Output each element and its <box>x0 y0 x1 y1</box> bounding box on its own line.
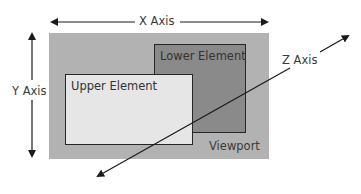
y-axis-label: Y Axis <box>12 86 47 98</box>
x-axis-label: X Axis <box>139 16 174 28</box>
z-axis-label: Z Axis <box>282 55 317 67</box>
stacking-diagram: Lower Element Upper Element Viewport X A… <box>0 0 361 194</box>
axes-overlay <box>0 0 361 194</box>
